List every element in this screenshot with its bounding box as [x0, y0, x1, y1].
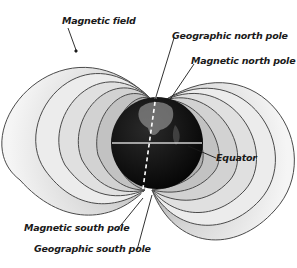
label-geographic-north-pole: Geographic north pole: [172, 30, 288, 41]
label-equator: Equator: [216, 152, 257, 163]
magnetic-field-diagram: Magnetic field Geographic north pole Mag…: [0, 0, 297, 268]
label-geographic-south-pole: Geographic south pole: [34, 243, 151, 254]
label-magnetic-north-pole: Magnetic north pole: [191, 55, 295, 66]
label-magnetic-field: Magnetic field: [62, 15, 136, 26]
label-magnetic-south-pole: Magnetic south pole: [24, 222, 129, 233]
leader-geographic-north: [155, 38, 174, 100]
leader-magnetic-field: [68, 28, 76, 50]
